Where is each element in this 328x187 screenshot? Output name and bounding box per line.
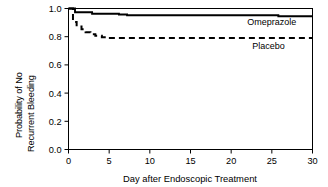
y-tick-label: 0.4 — [49, 89, 62, 99]
y-axis-title-line2: Recurrent Bleeding — [26, 75, 36, 152]
y-tick-label: 0.6 — [49, 60, 62, 70]
chart-plot-area: 0.00.20.40.60.81.0 051015202530 Omeprazo… — [0, 0, 328, 187]
series-label-omeprazole: Omeprazole — [247, 17, 296, 27]
x-tick-label: 20 — [226, 156, 236, 166]
plot-frame — [69, 9, 313, 150]
x-axis-ticks: 051015202530 — [66, 150, 318, 166]
x-tick-label: 10 — [145, 156, 155, 166]
x-tick-label: 15 — [185, 156, 195, 166]
chart-figure: Probability of No Recurrent Bleeding 0.0… — [0, 0, 328, 187]
y-axis-title-line1: Probability of No — [14, 72, 24, 138]
y-tick-label: 0.0 — [49, 145, 62, 155]
series-label-placebo: Placebo — [252, 41, 285, 51]
y-axis-ticks: 0.00.20.40.60.81.0 — [49, 4, 69, 155]
x-tick-label: 0 — [66, 156, 71, 166]
x-tick-label: 30 — [307, 156, 317, 166]
x-axis-title: Day after Endoscopic Treatment — [123, 173, 257, 184]
y-tick-label: 1.0 — [49, 4, 62, 14]
y-tick-label: 0.8 — [49, 32, 62, 42]
y-axis-title: Probability of No Recurrent Bleeding — [0, 0, 42, 187]
y-tick-label: 0.2 — [49, 117, 62, 127]
x-tick-label: 5 — [107, 156, 112, 166]
x-tick-label: 25 — [267, 156, 277, 166]
